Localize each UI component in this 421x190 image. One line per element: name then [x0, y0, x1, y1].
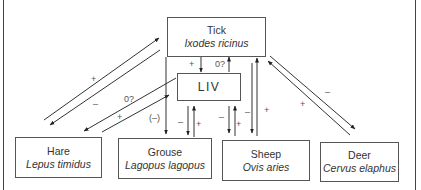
edge-label-tick-to-deer: –	[325, 88, 330, 97]
edge-label-sheep-to-liv: +	[236, 120, 241, 129]
node-liv: LIV	[177, 73, 241, 101]
edge-label-grouse-to-liv: +	[196, 120, 201, 129]
edge-label-tick-to-hare: –	[93, 100, 98, 109]
node-hare: Hare Lepus timidus	[15, 137, 102, 178]
edge-label-liv-to-grouse: –	[178, 118, 183, 127]
node-sheep-latin-name: Ovis aries	[243, 161, 290, 174]
edge-arrow-tick-to-hare	[50, 50, 160, 125]
edge-label-liv-to-hare: 0?	[124, 95, 134, 104]
node-sheep: Sheep Ovis aries	[222, 140, 310, 181]
edge-arrow-hare-to-tick	[44, 38, 159, 120]
edge-label-liv-to-sheep: –	[219, 113, 224, 122]
node-hare-common-name: Hare	[47, 145, 70, 158]
node-liv-name: LIV	[198, 81, 221, 94]
node-grouse: Grouse Lagopus lagopus	[118, 138, 212, 179]
edge-arrow-tick-to-deer	[270, 56, 355, 129]
edge-label-deer-to-tick: +	[300, 100, 305, 109]
edge-label-tick-to-grouse: (–)	[149, 114, 160, 123]
edge-label-tick-to-sheep: –	[245, 108, 250, 117]
edge-label-sheep-to-tick: +	[264, 106, 269, 115]
node-tick-common-name: Tick	[207, 24, 226, 37]
edge-label-liv-to-tick: 0?	[215, 60, 225, 69]
edge-label-hare-to-liv: +	[117, 113, 122, 122]
node-tick: Tick Ixodes ricinus	[167, 17, 266, 57]
node-tick-latin-name: Ixodes ricinus	[184, 37, 248, 50]
edge-arrow-deer-to-tick	[268, 61, 350, 135]
node-deer-latin-name: Cervus elaphus	[323, 162, 396, 175]
node-grouse-latin-name: Lagopus lagopus	[125, 159, 205, 172]
node-hare-latin-name: Lepus timidus	[26, 158, 91, 171]
node-deer: Deer Cervus elaphus	[320, 142, 399, 182]
node-grouse-common-name: Grouse	[148, 146, 182, 159]
edge-label-hare-to-tick: +	[91, 75, 96, 84]
node-sheep-common-name: Sheep	[251, 148, 281, 161]
node-deer-common-name: Deer	[348, 149, 371, 162]
edge-label-tick-to-liv: +	[189, 60, 194, 69]
